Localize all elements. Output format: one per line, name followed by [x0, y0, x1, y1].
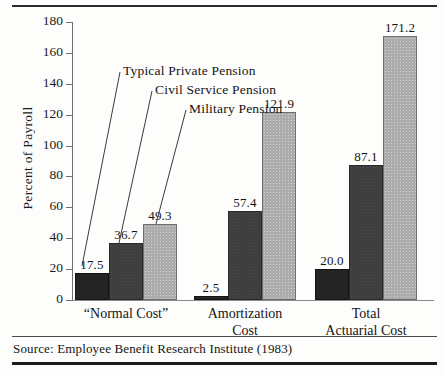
bar-value-label: 2.5: [188, 280, 234, 296]
y-tick: [66, 84, 73, 85]
y-tick: [66, 238, 73, 239]
y-tick-label: 40: [19, 229, 63, 245]
y-tick: [66, 176, 73, 177]
bar: [383, 36, 417, 300]
y-tick: [66, 53, 73, 54]
x-axis-line: [72, 300, 434, 301]
y-tick-label: 140: [19, 75, 63, 91]
bar-value-label: 36.7: [103, 227, 149, 243]
y-tick: [66, 300, 73, 301]
y-tick-label: 60: [19, 198, 63, 214]
x-axis-category-label: AmortizationCost: [175, 305, 315, 339]
category-label-line: Amortization: [175, 305, 315, 322]
source-divider-rule: [12, 336, 437, 337]
bottom-divider-rule: [12, 362, 437, 365]
bar-value-label: 17.5: [69, 257, 115, 273]
y-tick-label: 180: [19, 13, 63, 29]
bar-value-label: 49.3: [137, 208, 183, 224]
source-note: Source: Employee Benefit Research Instit…: [13, 341, 292, 357]
y-tick-label: 80: [19, 167, 63, 183]
figure-container: Percent of Payroll 020406080100120140160…: [0, 0, 443, 374]
y-tick-label: 20: [19, 260, 63, 276]
y-tick: [66, 207, 73, 208]
y-tick-label: 160: [19, 44, 63, 60]
y-tick-label: 120: [19, 106, 63, 122]
y-tick: [66, 146, 73, 147]
bar: [349, 165, 383, 300]
series-annotation-label: Military Pension: [189, 101, 283, 117]
bar: [75, 273, 109, 300]
bar-value-label: 57.4: [222, 195, 268, 211]
bar-value-label: 87.1: [343, 149, 389, 165]
x-axis-category-label: TotalActuarial Cost: [296, 305, 436, 339]
bar-value-label: 171.2: [377, 20, 423, 36]
y-tick: [66, 115, 73, 116]
series-annotation-label: Civil Service Pension: [155, 82, 276, 98]
category-label-line: Total: [296, 305, 436, 322]
bar: [194, 296, 228, 300]
y-tick: [66, 22, 73, 23]
series-annotation-label: Typical Private Pension: [123, 63, 256, 79]
top-divider-rule: [12, 5, 437, 7]
y-tick-label: 100: [19, 137, 63, 153]
bar: [315, 269, 349, 300]
bar-value-label: 20.0: [309, 253, 355, 269]
